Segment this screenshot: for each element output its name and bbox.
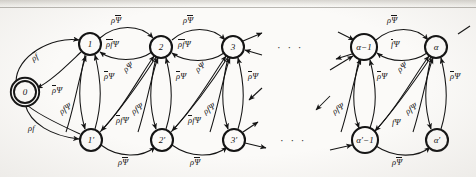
edge-label-l-rhobar-fbar-psi-32: ρfΨ — [178, 40, 191, 49]
glyph: Ψ — [122, 158, 128, 167]
edge-a-to-ap — [426, 58, 431, 129]
dots-top: · · · — [277, 41, 304, 53]
edge-label-l-rhobar-f-psi-2: ρfΨ — [188, 116, 201, 125]
edge-label-l-rhobar-psi-3: ρΨ — [248, 72, 258, 81]
node-n2p[interactable]: 2′ — [151, 129, 173, 151]
node-n3p[interactable]: 3′ — [223, 129, 245, 151]
node-na1[interactable]: α−1 — [351, 34, 377, 60]
edge-label-l-rhobar-psi-0: ρΨ — [52, 86, 62, 95]
edge-1p-to-2p — [101, 145, 155, 155]
edge-3-to-3p — [223, 58, 228, 129]
edge-ap-to-a — [441, 58, 446, 129]
glyph: f — [182, 40, 184, 49]
glyph: f — [110, 40, 112, 49]
edge-label-l-rho-psibar-12: ρΨ — [111, 16, 121, 25]
edge-label-l-fbar-psi-aa: fΨ — [391, 40, 400, 49]
edge-a1-to-a1p — [354, 60, 359, 128]
glyph: Ψ — [252, 71, 258, 81]
node-nap[interactable]: α′ — [426, 129, 448, 151]
edge-a-out-right — [458, 26, 470, 34]
edge-label-l-rhobar-psi-a1: ρΨ — [377, 72, 387, 81]
node-n1[interactable]: 1 — [79, 33, 101, 55]
node-n1p[interactable]: 1′ — [80, 129, 102, 151]
edge-out-left-upper — [316, 96, 330, 110]
node-na[interactable]: α — [425, 36, 447, 58]
edge-label-l-rhobar-fbar-psi-21: ρfΨ — [106, 40, 119, 49]
glyph: ρ — [116, 116, 120, 125]
glyph: Ψ — [123, 115, 129, 125]
node-label: α′−1 — [356, 135, 373, 145]
glyph: Ψ — [108, 71, 114, 81]
edge-label-l-rho-f: ρf — [28, 124, 35, 133]
node-label: 0 — [23, 87, 28, 97]
edge-prev-to-a1p — [330, 145, 352, 150]
edge-label-l-rhobar-f-psi-1: ρfΨ — [116, 116, 129, 125]
glyph: Ψ — [56, 85, 62, 95]
node-label: 1 — [88, 39, 93, 49]
edge-3p-out-up — [243, 122, 258, 132]
glyph: ρ — [188, 116, 192, 125]
node-n3[interactable]: 3 — [222, 36, 244, 58]
edge-prev2-to-a1 — [330, 56, 353, 70]
edge-3-to-2 — [172, 53, 224, 61]
edge-1-to-0 — [37, 52, 81, 88]
glyph: ρ — [52, 86, 56, 95]
edge-label-l-rho-psibar-b3: ρΨ — [392, 158, 402, 167]
edge-label-l-rho-psibar-aa: ρΨ — [387, 16, 397, 25]
glyph: f — [32, 123, 34, 133]
node-label: α−1 — [356, 42, 371, 52]
node-label: 3′ — [230, 135, 239, 145]
glyph: Ψ — [394, 117, 400, 127]
glyph: Ψ — [454, 71, 460, 81]
node-label: 3 — [230, 42, 236, 52]
edge-label-l-f-psi-a1: fΨ — [392, 118, 401, 127]
node-label: α′ — [434, 135, 442, 145]
diagram-canvas: 0123α−1α1′2′3′α′−1α′ — [0, 0, 476, 177]
node-n2[interactable]: 2 — [150, 36, 172, 58]
node-na1p[interactable]: α′−1 — [352, 127, 378, 153]
edge-3-to-next — [243, 33, 262, 41]
edge-label-l-rho-psibar-23: ρΨ — [183, 16, 193, 25]
node-label: 2′ — [159, 135, 167, 145]
glyph: Ψ — [113, 39, 119, 49]
glyph: Ψ — [194, 158, 200, 167]
edge-1-to-2 — [100, 28, 153, 39]
edge-2p-to-3p — [172, 145, 227, 155]
glyph: Ψ — [180, 71, 186, 81]
glyph: Ψ — [381, 71, 387, 81]
glyph: ρ — [450, 72, 454, 81]
glyph: Ψ — [391, 16, 397, 25]
edge-0-to-1 — [16, 39, 79, 82]
edge-2-to-2p — [151, 58, 156, 129]
edge-a1p-to-a1 — [370, 60, 375, 128]
glyph: Ψ — [396, 158, 402, 167]
edge-a1-to-a — [376, 30, 428, 41]
glyph: f — [391, 40, 393, 49]
node-label: 2 — [159, 42, 164, 52]
edge-label-l-rho-psibar-b2: ρΨ — [190, 158, 200, 167]
glyph: Ψ — [195, 115, 201, 125]
edge-3p-to-3 — [238, 58, 243, 129]
glyph: ρ — [176, 72, 180, 81]
glyph: ρ — [248, 72, 252, 81]
glyph: Ψ — [187, 16, 193, 25]
edge-a1p-to-ap — [376, 146, 430, 155]
transition-diagram-figure: 0123α−1α1′2′3′α′−1α′ · · ·· · ·ρfρΨρfρΨρ… — [0, 0, 476, 177]
edge-label-l-rhobar-psi-2: ρΨ — [176, 72, 186, 81]
glyph: ρ — [104, 72, 108, 81]
node-label: 1′ — [88, 135, 96, 145]
edge-prev-to-a1 — [338, 32, 354, 40]
glyph: Ψ — [115, 16, 121, 25]
glyph: Ψ — [185, 39, 191, 49]
edge-2p-to-2 — [166, 58, 171, 129]
edge-label-l-rhobar-psi-1: ρΨ — [104, 72, 114, 81]
node-label: α — [434, 42, 439, 52]
edge-lower-to-a1 — [341, 59, 361, 132]
edge-3p-to-next — [245, 143, 266, 148]
edge-label-l-rho-psibar-b1: ρΨ — [118, 158, 128, 167]
edge-3-out-left — [249, 88, 262, 100]
edge-next-to-3 — [245, 50, 262, 55]
edge-2-to-1 — [100, 52, 152, 60]
node-n0[interactable]: 0 — [11, 78, 39, 106]
edge-1p-to-1 — [95, 55, 100, 129]
